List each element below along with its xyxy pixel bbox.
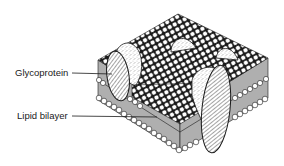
lipid-bilayer-illustration: [0, 0, 284, 166]
lipid-bilayer-label: Lipid bilayer: [17, 110, 68, 121]
glycoprotein-label: Glycoprotein: [15, 67, 68, 78]
membrane-diagram: Glycoprotein Lipid bilayer: [0, 0, 284, 166]
